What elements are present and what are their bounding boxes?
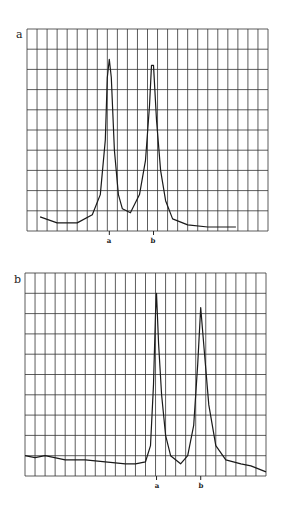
trace-line bbox=[40, 59, 236, 227]
chart-a bbox=[27, 29, 268, 235]
chart-b bbox=[25, 273, 266, 480]
chart-canvas bbox=[0, 0, 281, 508]
